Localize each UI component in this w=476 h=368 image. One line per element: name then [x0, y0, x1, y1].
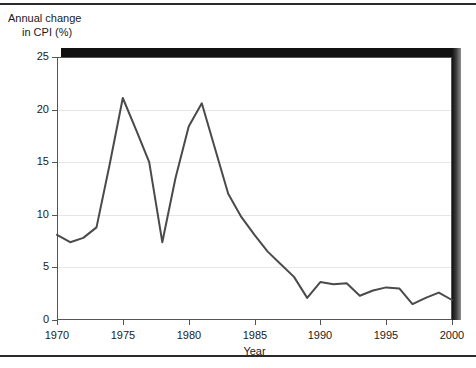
- y-tick-label: 10: [9, 208, 49, 220]
- x-tick-label: 1995: [361, 329, 411, 341]
- y-tick-mark: [52, 57, 57, 58]
- y-tick-mark: [52, 267, 57, 268]
- x-tick-label: 1980: [164, 329, 214, 341]
- y-tick-mark: [52, 110, 57, 111]
- gridline: [58, 215, 451, 216]
- x-tick-mark: [57, 320, 58, 325]
- x-tick-label: 1985: [230, 329, 280, 341]
- x-tick-mark: [386, 320, 387, 325]
- y-tick-mark: [52, 215, 57, 216]
- y-tick-label: 15: [9, 155, 49, 167]
- y-tick-label: 5: [9, 260, 49, 272]
- x-tick-mark: [123, 320, 124, 325]
- y-tick-label: 20: [9, 103, 49, 115]
- y-tick-label: 0: [9, 313, 49, 325]
- x-axis-title: Year: [57, 345, 452, 357]
- x-tick-label: 1990: [295, 329, 345, 341]
- plot-frame-shadow-right: [452, 48, 461, 320]
- cpi-line-chart: 0510152025 1970197519801985199019952000 …: [0, 0, 476, 368]
- x-tick-mark: [320, 320, 321, 325]
- x-tick-label: 1975: [98, 329, 148, 341]
- y-tick-mark: [52, 162, 57, 163]
- gridline: [58, 267, 451, 268]
- x-tick-mark: [452, 320, 453, 325]
- gridline: [58, 162, 451, 163]
- plot-frame-shadow-top: [61, 48, 456, 57]
- x-tick-mark: [255, 320, 256, 325]
- y-tick-label: 25: [9, 50, 49, 62]
- plot-area: [57, 57, 452, 320]
- gridline: [58, 110, 451, 111]
- x-tick-mark: [189, 320, 190, 325]
- x-tick-label: 2000: [427, 329, 476, 341]
- x-tick-label: 1970: [32, 329, 82, 341]
